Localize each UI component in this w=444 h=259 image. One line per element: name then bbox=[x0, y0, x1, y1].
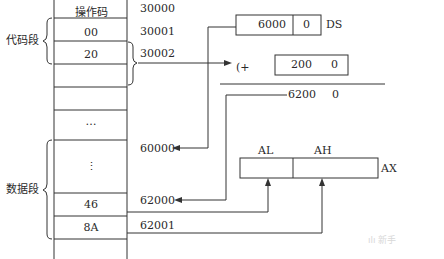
memory-cell-ellipsis: … bbox=[55, 115, 127, 128]
result-value: 6200 bbox=[288, 89, 316, 101]
address-30001: 30001 bbox=[140, 26, 175, 38]
offset-value: 200 bbox=[291, 59, 312, 71]
memory-cell-62000: 46 bbox=[55, 198, 127, 211]
ds-label: DS bbox=[326, 19, 342, 31]
register-ax-label: AX bbox=[381, 163, 397, 175]
address-62001: 62001 bbox=[140, 220, 175, 232]
ds-value: 6000 bbox=[258, 19, 286, 31]
data-segment-label: 数据段 bbox=[6, 184, 39, 196]
memory-cell-30002: 20 bbox=[55, 48, 127, 61]
watermark: ılı 新手 bbox=[368, 233, 396, 246]
register-al-label: AL bbox=[258, 145, 273, 157]
memory-cell-62001: 8A bbox=[55, 221, 127, 234]
address-30002: 30002 bbox=[140, 48, 175, 60]
code-segment-label: 代码段 bbox=[6, 35, 39, 47]
ds-shift: 0 bbox=[303, 19, 310, 31]
memory-cell-opcode: 操作码 bbox=[55, 3, 127, 19]
result-shift: 0 bbox=[332, 89, 339, 101]
address-62000: 62000 bbox=[140, 195, 175, 207]
memory-cell-vertical-ellipsis: ⋮ bbox=[55, 160, 127, 173]
plus-sign: (+ bbox=[236, 62, 250, 74]
register-ah-label: AH bbox=[314, 145, 332, 157]
offset-shift: 0 bbox=[331, 59, 338, 71]
address-30000: 30000 bbox=[140, 3, 175, 15]
address-60000: 60000 bbox=[140, 143, 175, 155]
memory-cell-30001: 00 bbox=[55, 26, 127, 39]
